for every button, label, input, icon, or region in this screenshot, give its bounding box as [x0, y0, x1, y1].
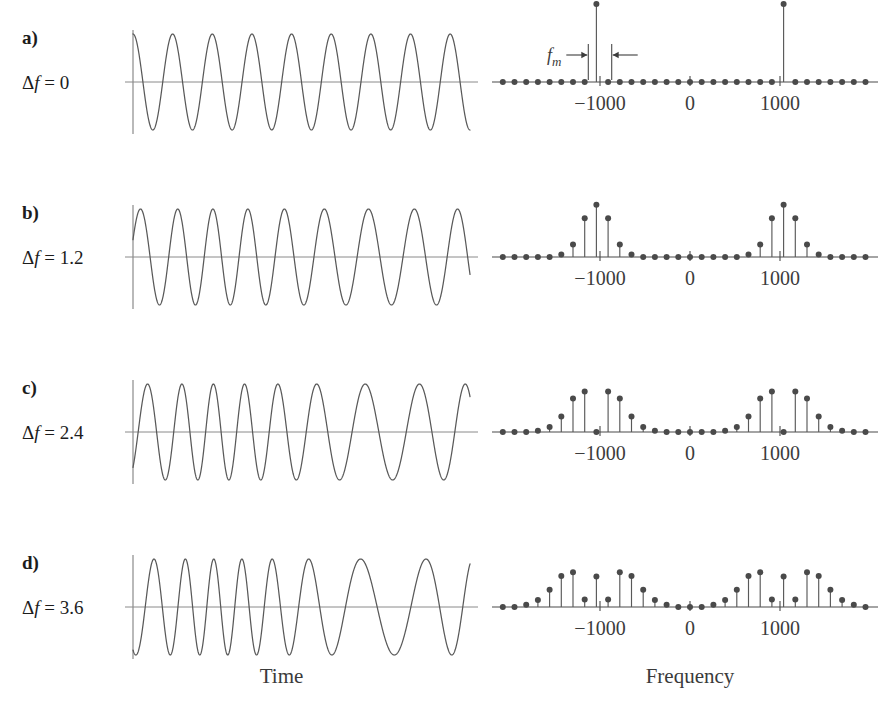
spectral-line-marker: [734, 424, 740, 430]
spectral-line-marker: [605, 79, 611, 85]
spectral-line-marker: [605, 215, 611, 221]
spectral-line-marker: [687, 254, 693, 260]
spectral-line-marker: [827, 254, 833, 260]
spectral-line-marker: [710, 79, 716, 85]
frequency-tick-label: 1000: [760, 92, 800, 114]
spectral-line-marker: [593, 429, 599, 435]
spectral-line-marker: [687, 79, 693, 85]
spectral-line-marker: [710, 254, 716, 260]
spectral-line-marker: [535, 79, 541, 85]
panel-letter: a): [22, 27, 38, 49]
frequency-axis-caption: Frequency: [646, 664, 735, 688]
spectral-line-marker: [664, 79, 670, 85]
spectral-line-marker: [535, 597, 541, 603]
spectral-line-marker: [570, 395, 576, 401]
spectral-line-marker: [675, 79, 681, 85]
spectral-line-marker: [827, 79, 833, 85]
panel-deviation-label: Δf = 2.4: [22, 422, 84, 443]
spectral-line-marker: [664, 602, 670, 608]
fm-label: fm: [547, 45, 561, 69]
fm-modulation-figure: a)Δf = 0−100001000fmb)Δf = 1.2−100001000…: [0, 0, 888, 709]
spectral-line-marker: [839, 428, 845, 434]
spectral-line-marker: [640, 587, 646, 593]
spectral-line-marker: [757, 395, 763, 401]
spectral-line-marker: [827, 424, 833, 430]
spectral-line-marker: [582, 597, 588, 603]
spectral-line-marker: [582, 215, 588, 221]
spectral-line-marker: [558, 251, 564, 257]
spectral-line-marker: [781, 573, 787, 579]
spectral-line-marker: [722, 79, 728, 85]
spectral-line-marker: [816, 414, 822, 420]
spectral-line-marker: [640, 254, 646, 260]
spectral-line-marker: [781, 202, 787, 208]
panel-deviation-label: Δf = 0: [22, 72, 69, 93]
frequency-domain-plot: −100001000: [492, 569, 878, 639]
panel-letter: c): [22, 377, 37, 399]
spectral-line-marker: [582, 388, 588, 394]
spectral-line-marker: [629, 79, 635, 85]
spectral-line-marker: [816, 573, 822, 579]
frequency-tick-label: −1000: [574, 267, 625, 289]
spectral-line-marker: [851, 602, 857, 608]
spectral-line-marker: [512, 429, 518, 435]
spectral-line-marker: [863, 254, 869, 260]
spectral-line-marker: [687, 429, 693, 435]
spectral-line-marker: [839, 79, 845, 85]
spectral-line-marker: [699, 79, 705, 85]
spectral-line-marker: [664, 254, 670, 260]
spectral-line-marker: [652, 79, 658, 85]
spectral-line-marker: [617, 79, 623, 85]
spectral-line-marker: [652, 254, 658, 260]
spectral-line-marker: [734, 587, 740, 593]
spectral-line-marker: [746, 251, 752, 257]
spectral-line-marker: [535, 428, 541, 434]
spectral-line-marker: [757, 242, 763, 248]
frequency-domain-plot: −100001000: [492, 202, 878, 289]
spectral-line-marker: [629, 414, 635, 420]
panel-d: d)Δf = 3.6−100001000: [22, 552, 878, 659]
spectral-line-marker: [781, 1, 787, 7]
spectral-line-marker: [746, 573, 752, 579]
spectral-line-marker: [535, 254, 541, 260]
spectral-line-marker: [827, 587, 833, 593]
spectral-line-marker: [839, 254, 845, 260]
panel-letter: b): [22, 202, 39, 224]
spectral-line-marker: [500, 429, 506, 435]
spectral-line-marker: [804, 395, 810, 401]
spectral-line-marker: [593, 573, 599, 579]
spectral-line-marker: [523, 79, 529, 85]
fm-arrowhead-left: [581, 52, 587, 58]
spectral-line-marker: [734, 79, 740, 85]
spectral-line-marker: [617, 395, 623, 401]
frequency-tick-label: 1000: [760, 267, 800, 289]
spectral-line-marker: [512, 254, 518, 260]
spectral-line-marker: [769, 215, 775, 221]
spectral-line-marker: [757, 569, 763, 575]
spectral-line-marker: [593, 1, 599, 7]
spectral-line-marker: [547, 424, 553, 430]
spectral-line-marker: [863, 79, 869, 85]
spectral-line-marker: [804, 242, 810, 248]
spectral-line-marker: [792, 215, 798, 221]
panel-c: c)Δf = 2.4−100001000: [22, 377, 878, 484]
frequency-tick-label: −1000: [574, 92, 625, 114]
spectral-line-marker: [769, 388, 775, 394]
panel-b: b)Δf = 1.2−100001000: [22, 202, 878, 309]
spectral-line-marker: [629, 251, 635, 257]
panel-a: a)Δf = 0−100001000fm: [22, 1, 878, 134]
spectral-line-marker: [769, 597, 775, 603]
spectral-line-marker: [699, 429, 705, 435]
spectral-line-marker: [547, 254, 553, 260]
fm-arrowhead-right: [613, 52, 619, 58]
spectral-line-marker: [746, 414, 752, 420]
spectral-line-marker: [804, 569, 810, 575]
frequency-tick-label: 1000: [760, 617, 800, 639]
spectral-line-marker: [593, 202, 599, 208]
spectral-line-marker: [769, 79, 775, 85]
spectral-line-marker: [863, 429, 869, 435]
time-axis-caption: Time: [260, 664, 304, 688]
spectral-line-marker: [605, 597, 611, 603]
spectral-line-marker: [547, 587, 553, 593]
spectral-line-marker: [570, 242, 576, 248]
